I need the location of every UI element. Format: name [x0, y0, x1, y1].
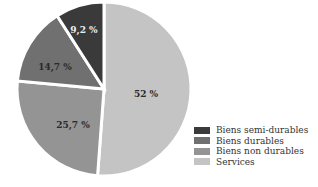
pie-label: 52 %	[134, 89, 159, 99]
legend-swatch	[194, 148, 210, 155]
legend-item-biens-non-durables: Biens non durables	[194, 146, 308, 157]
pie-chart: 52 %25,7 %14,7 %9,2 %	[0, 0, 200, 187]
legend-label: Services	[216, 157, 255, 167]
legend-label: Biens durables	[216, 136, 284, 146]
legend-swatch	[194, 137, 210, 144]
pie-label: 14,7 %	[38, 62, 72, 73]
legend-item-services: Services	[194, 157, 308, 168]
legend-swatch	[194, 127, 210, 134]
pie-slices	[17, 2, 191, 176]
legend-label: Biens non durables	[216, 146, 304, 156]
legend-label: Biens semi-durables	[216, 125, 308, 135]
legend: Biens semi-durables Biens durables Biens…	[194, 125, 308, 167]
legend-item-biens-durables: Biens durables	[194, 136, 308, 147]
legend-item-biens-semi-durables: Biens semi-durables	[194, 125, 308, 136]
legend-swatch	[194, 158, 210, 165]
pie-label: 25,7 %	[56, 120, 90, 131]
pie-label: 9,2 %	[70, 25, 98, 36]
